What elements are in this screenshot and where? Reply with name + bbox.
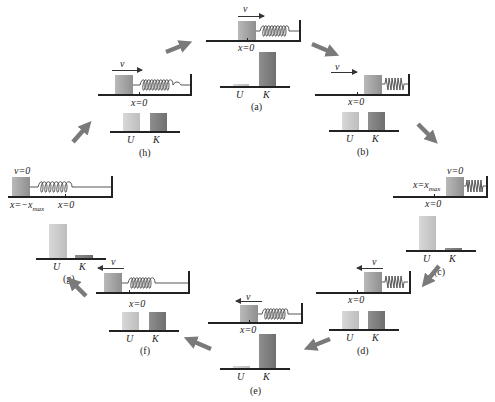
- arrow-a-to-b-icon: [312, 44, 333, 53]
- arrow-d-to-e-icon: [310, 339, 330, 347]
- arrow-g-to-h-icon: [73, 126, 87, 142]
- arrow-f-to-g-icon: [72, 282, 86, 296]
- arrow-c-to-d-icon: [426, 266, 439, 282]
- arrow-e-to-f-icon: [190, 340, 211, 349]
- arrow-b-to-c-icon: [418, 124, 433, 139]
- arrow-h-to-a-icon: [166, 44, 186, 52]
- cycle-arrows: [0, 0, 495, 402]
